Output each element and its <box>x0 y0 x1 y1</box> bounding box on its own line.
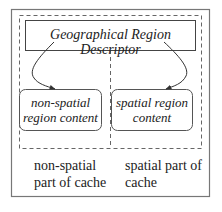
non-spatial-caption-line2: part of cache <box>34 174 114 191</box>
non-spatial-caption-line1: non-spatial <box>34 157 114 174</box>
spatial-caption-line2: cache <box>125 174 209 191</box>
spatial-caption-line1: spatial part of <box>125 157 209 174</box>
spatial-content-label: spatial region content <box>111 95 193 125</box>
non-spatial-content-label: non-spatial region content <box>19 95 102 125</box>
spatial-content-line2: content <box>111 110 193 125</box>
spatial-cache-caption: spatial part of cache <box>125 157 209 191</box>
non-spatial-content-line1: non-spatial <box>19 95 102 110</box>
non-spatial-cache-caption: non-spatial part of cache <box>34 157 114 191</box>
spatial-content-line1: spatial region <box>111 95 193 110</box>
descriptor-label: Geographical Region Descriptor <box>25 27 196 57</box>
non-spatial-content-line2: region content <box>19 110 102 125</box>
